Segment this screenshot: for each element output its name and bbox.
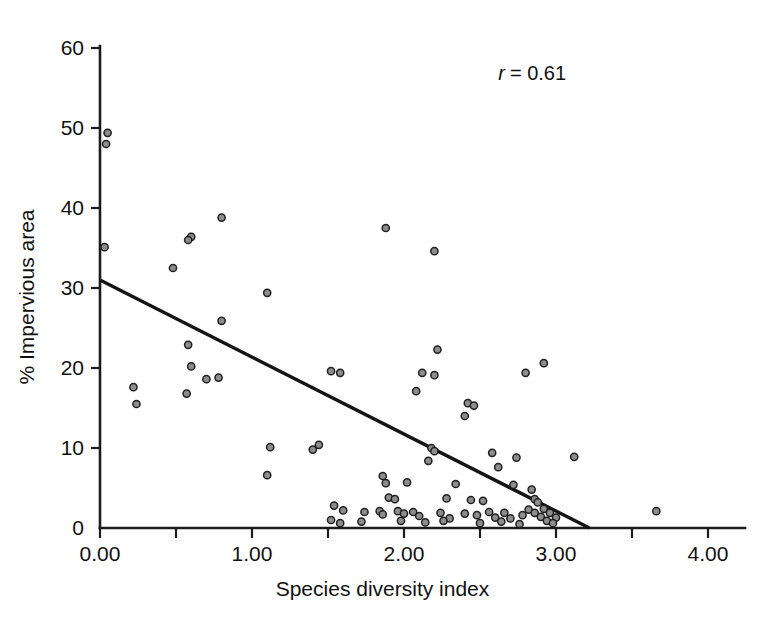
y-axis-tick-label: 10 — [61, 436, 84, 459]
y-axis-title: % Impervious area — [15, 209, 38, 384]
scatter-point — [102, 140, 109, 147]
scatter-point — [486, 508, 493, 515]
scatter-point — [215, 374, 222, 381]
scatter-point — [489, 449, 496, 456]
scatter-point — [571, 453, 578, 460]
scatter-point — [653, 508, 660, 515]
scatter-point — [379, 511, 386, 518]
scatter-point — [413, 388, 420, 395]
scatter-point — [327, 368, 334, 375]
scatter-point — [340, 507, 347, 514]
scatter-point — [327, 516, 334, 523]
x-axis-tick-label: 3.00 — [536, 542, 577, 565]
x-axis-tick-label: 4.00 — [688, 542, 729, 565]
y-axis-tick-label: 60 — [61, 36, 84, 59]
x-axis-tick-label: 2.00 — [384, 542, 425, 565]
scatter-point — [183, 390, 190, 397]
scatter-point — [169, 264, 176, 271]
scatter-point — [452, 480, 459, 487]
scatter-point — [188, 363, 195, 370]
scatter-plot: 01020304050600.001.002.003.004.00Species… — [0, 0, 765, 620]
scatter-point — [516, 520, 523, 527]
scatter-point — [267, 444, 274, 451]
scatter-point — [528, 486, 535, 493]
y-axis-tick-label: 20 — [61, 356, 84, 379]
scatter-point — [461, 412, 468, 419]
scatter-point — [513, 454, 520, 461]
scatter-point — [507, 515, 514, 522]
scatter-point — [510, 481, 517, 488]
scatter-point — [495, 464, 502, 471]
regression-line — [100, 280, 589, 528]
scatter-point — [337, 520, 344, 527]
scatter-point — [479, 497, 486, 504]
scatter-point — [470, 402, 477, 409]
scatter-point — [467, 496, 474, 503]
scatter-point — [419, 369, 426, 376]
y-axis-tick-label: 30 — [61, 276, 84, 299]
scatter-point — [431, 372, 438, 379]
scatter-point — [264, 289, 271, 296]
scatter-point — [130, 384, 137, 391]
x-axis-tick-label: 1.00 — [232, 542, 273, 565]
scatter-point — [397, 517, 404, 524]
annotations: r= 0.61 — [498, 62, 566, 84]
scatter-point — [431, 448, 438, 455]
scatter-point — [218, 214, 225, 221]
scatter-point — [330, 502, 337, 509]
scatter-point — [403, 479, 410, 486]
data-points — [101, 129, 660, 527]
scatter-point — [309, 446, 316, 453]
scatter-point — [501, 509, 508, 516]
scatter-point — [549, 520, 556, 527]
scatter-point — [461, 510, 468, 517]
scatter-point — [379, 472, 386, 479]
y-axis-tick-label: 0 — [72, 516, 84, 539]
scatter-point — [443, 495, 450, 502]
scatter-point — [434, 346, 441, 353]
scatter-point — [101, 244, 108, 251]
scatter-point — [382, 224, 389, 231]
scatter-point — [437, 509, 444, 516]
scatter-point — [540, 360, 547, 367]
scatter-point — [185, 236, 192, 243]
scatter-point — [382, 480, 389, 487]
scatter-point — [203, 376, 210, 383]
axes — [91, 46, 745, 538]
correlation-annotation: r= 0.61 — [498, 62, 566, 84]
x-axis-tick-label: 0.00 — [80, 542, 121, 565]
scatter-point — [422, 519, 429, 526]
scatter-point — [264, 472, 271, 479]
scatter-point — [185, 341, 192, 348]
scatter-point — [473, 512, 480, 519]
scatter-point — [400, 510, 407, 517]
correlation-value: = 0.61 — [510, 62, 566, 84]
scatter-point — [104, 129, 111, 136]
scatter-point — [431, 248, 438, 255]
scatter-point — [361, 508, 368, 515]
scatter-point — [519, 512, 526, 519]
correlation-symbol: r — [498, 62, 506, 84]
scatter-point — [522, 369, 529, 376]
scatter-point — [534, 499, 541, 506]
scatter-point — [476, 520, 483, 527]
scatter-point — [416, 512, 423, 519]
scatter-point — [440, 517, 447, 524]
trend-line — [100, 280, 589, 528]
scatter-point — [391, 496, 398, 503]
scatter-point — [498, 518, 505, 525]
chart-figure: 01020304050600.001.002.003.004.00Species… — [0, 0, 765, 620]
scatter-point — [425, 457, 432, 464]
scatter-point — [337, 369, 344, 376]
scatter-point — [218, 317, 225, 324]
axis-labels: 01020304050600.001.002.003.004.00Species… — [15, 36, 728, 600]
y-axis-tick-label: 40 — [61, 196, 84, 219]
y-axis-tick-label: 50 — [61, 116, 84, 139]
scatter-point — [133, 400, 140, 407]
x-axis-title: Species diversity index — [276, 577, 490, 600]
scatter-point — [358, 518, 365, 525]
